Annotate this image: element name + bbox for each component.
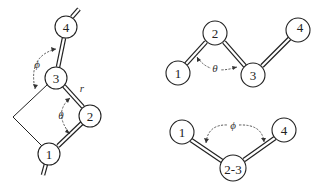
phi-angle-arc-right bbox=[239, 125, 264, 142]
atom-4: 4 bbox=[55, 16, 77, 38]
theta-label: θ bbox=[58, 109, 64, 121]
phi-label: ϕ bbox=[230, 119, 236, 131]
perpendicular-construction-lines bbox=[13, 84, 48, 146]
bond-2-3 bbox=[224, 42, 245, 66]
svg-text:3: 3 bbox=[250, 68, 257, 83]
bond-stub-top bbox=[72, 9, 79, 17]
atom-1: 1 bbox=[38, 143, 60, 165]
atom-4: 4 bbox=[272, 118, 296, 142]
svg-text:3: 3 bbox=[53, 71, 60, 86]
svg-text:4: 4 bbox=[63, 20, 70, 35]
svg-text:1: 1 bbox=[175, 66, 182, 81]
arrowhead-icon bbox=[204, 138, 209, 143]
atom-1: 1 bbox=[170, 120, 194, 144]
phi-label: ϕ bbox=[34, 58, 40, 70]
svg-text:1: 1 bbox=[46, 147, 53, 162]
svg-text:4: 4 bbox=[281, 123, 288, 138]
arrowhead-icon bbox=[33, 84, 38, 89]
arrowhead-icon bbox=[261, 138, 266, 142]
svg-text:1: 1 bbox=[179, 125, 186, 140]
atom-1: 1 bbox=[166, 61, 190, 85]
atom-2: 2 bbox=[79, 105, 101, 127]
atom-2-3: 2-3 bbox=[220, 155, 246, 181]
arrowhead-icon bbox=[65, 129, 70, 134]
atom-3: 3 bbox=[241, 63, 265, 87]
theta-label: θ bbox=[212, 62, 218, 74]
arrowhead-icon bbox=[51, 47, 56, 52]
molecular-geometry-diagram: ϕ θ r 4 3 2 1 bbox=[0, 0, 326, 189]
bond-3-4 bbox=[262, 35, 293, 66]
atom-2: 2 bbox=[203, 21, 227, 45]
svg-text:2-3: 2-3 bbox=[224, 162, 241, 177]
phi-angle-arc-left bbox=[206, 125, 228, 143]
svg-text:2: 2 bbox=[87, 109, 94, 124]
bond-3-4 bbox=[58, 38, 64, 67]
bond-1-2 bbox=[58, 123, 82, 146]
panel-bottom-right: ϕ 1 2-3 4 bbox=[170, 118, 296, 181]
atom-4: 4 bbox=[286, 18, 310, 42]
bond-1-2 bbox=[186, 42, 206, 64]
svg-text:4: 4 bbox=[297, 20, 304, 35]
bond-stub-bottom bbox=[43, 164, 46, 175]
bond-1-23 bbox=[191, 140, 222, 161]
panel-left: ϕ θ r 4 3 2 1 bbox=[13, 9, 101, 175]
panel-top-right: θ 1 2 3 4 bbox=[166, 18, 310, 87]
arrowhead-icon bbox=[232, 66, 237, 70]
bond-length-label: r bbox=[80, 82, 85, 94]
atom-3: 3 bbox=[45, 67, 67, 89]
bond-23-4 bbox=[244, 138, 275, 160]
arrowhead-icon bbox=[65, 98, 70, 103]
svg-text:2: 2 bbox=[212, 26, 219, 41]
